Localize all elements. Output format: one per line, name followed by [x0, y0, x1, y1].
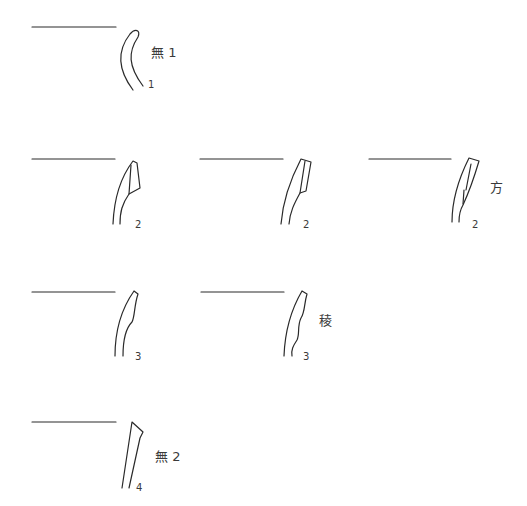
profile-2b	[200, 159, 311, 224]
profile-1	[32, 27, 143, 90]
profile-2a	[32, 159, 140, 224]
profile-number: 3	[303, 351, 309, 362]
category-label: 稜	[319, 310, 332, 329]
profile-3b	[201, 291, 307, 356]
profile-drawings	[0, 0, 527, 506]
profile-number: 1	[148, 79, 154, 90]
profile-number: 2	[303, 219, 309, 230]
profile-3a	[32, 291, 138, 356]
category-label: 方	[490, 177, 503, 196]
profile-number: 3	[135, 351, 141, 362]
profile-number: 2	[472, 219, 478, 230]
profile-number: 2	[135, 219, 141, 230]
category-label: 無 1	[151, 42, 176, 61]
profile-2c	[369, 158, 479, 222]
profile-4	[32, 422, 143, 488]
category-label: 無 2	[155, 446, 180, 465]
profile-number: 4	[136, 482, 142, 493]
